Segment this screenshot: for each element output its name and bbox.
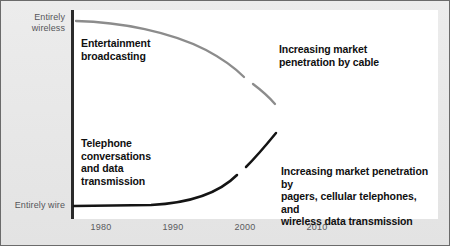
figure-container: Entirely wireless Entirely wire 1980 199… <box>0 0 450 246</box>
x-tick-label-1980: 1980 <box>84 222 118 232</box>
y-axis-line <box>71 10 74 219</box>
y-axis-bottom-label: Entirely wire <box>0 200 65 211</box>
annotation-telephone-conversations: Telephone conversations and data transmi… <box>81 137 211 187</box>
annotation-increasing-cable: Increasing market penetration by cable <box>279 43 429 68</box>
annotation-increasing-wireless: Increasing market penetration by pagers,… <box>281 165 437 228</box>
y-axis-top-label: Entirely wireless <box>5 12 65 33</box>
x-tick-label-2000: 2000 <box>228 222 262 232</box>
annotation-entertainment-broadcasting: Entertainment broadcasting <box>81 37 221 62</box>
x-tick-label-1990: 1990 <box>156 222 190 232</box>
